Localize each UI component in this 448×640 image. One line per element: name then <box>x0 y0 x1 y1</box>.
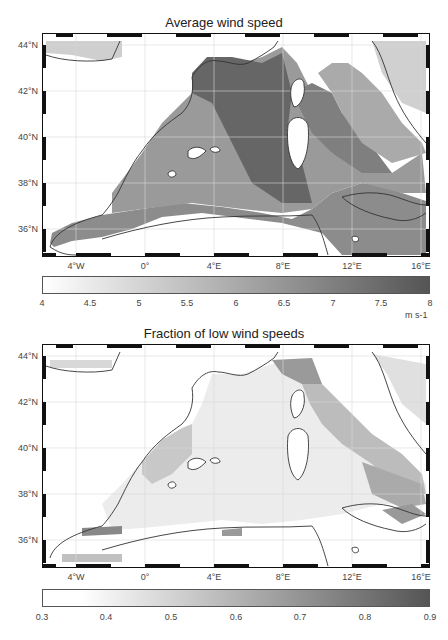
lat-tick: 40°N <box>2 443 38 453</box>
lat-tick: 36°N <box>2 224 38 234</box>
lat-tick: 38°N <box>2 178 38 188</box>
lat-tick: 44°N <box>2 40 38 50</box>
colorbar-tick: 0.4 <box>91 612 121 622</box>
colorbar-unit: m s-1 <box>405 310 428 320</box>
lon-tick: 0° <box>125 261 165 271</box>
colorbar-low-wind-fraction <box>42 589 430 607</box>
colorbar-tick: 0.3 <box>27 612 57 622</box>
lon-tick: 8°E <box>263 261 303 271</box>
colorbar-tick: 5.5 <box>172 298 202 308</box>
lat-tick: 42°N <box>2 86 38 96</box>
lon-tick: 16°E <box>401 261 441 271</box>
colorbar-tick: 4 <box>27 298 57 308</box>
lon-tick: 8°E <box>263 572 303 582</box>
colorbar-tick: 4.5 <box>75 298 105 308</box>
colorbar-tick: 0.5 <box>156 612 186 622</box>
colorbar-tick: 0.6 <box>221 612 251 622</box>
lat-tick: 40°N <box>2 132 38 142</box>
lon-tick: 12°E <box>332 572 372 582</box>
colorbar-tick: 0.8 <box>350 612 380 622</box>
lon-tick: 4°E <box>194 261 234 271</box>
lon-tick: 4°W <box>56 572 96 582</box>
panel-title: Average wind speed <box>0 15 448 30</box>
lon-tick: 0° <box>125 572 165 582</box>
panel-title: Fraction of low wind speeds <box>0 326 448 341</box>
lon-tick: 16°E <box>401 572 441 582</box>
colorbar-tick: 8 <box>415 298 445 308</box>
colorbar-wind-speed <box>42 276 430 294</box>
lon-tick: 4°E <box>194 572 234 582</box>
colorbar-tick: 0.9 <box>415 612 445 622</box>
colorbar-tick: 0.7 <box>285 612 315 622</box>
lat-tick: 44°N <box>2 351 38 361</box>
lat-tick: 38°N <box>2 489 38 499</box>
colorbar-tick: 7.5 <box>366 298 396 308</box>
lat-tick: 36°N <box>2 535 38 545</box>
low-wind-fraction-map <box>42 344 430 568</box>
lon-tick: 12°E <box>332 261 372 271</box>
lon-tick: 4°W <box>56 261 96 271</box>
colorbar-tick: 6.5 <box>269 298 299 308</box>
colorbar-tick: 5 <box>124 298 154 308</box>
lat-tick: 42°N <box>2 397 38 407</box>
colorbar-tick: 7 <box>318 298 348 308</box>
colorbar-tick: 6 <box>221 298 251 308</box>
wind-speed-map <box>42 33 430 257</box>
